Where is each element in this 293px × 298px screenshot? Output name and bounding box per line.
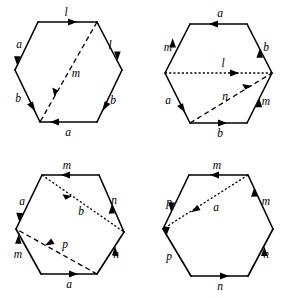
- edge-label-top-br: m: [213, 159, 221, 171]
- edge-lower-right-bl: [97, 232, 124, 274]
- edge-label-lower-right-bl: n: [113, 248, 119, 260]
- edge-label-upper-left-bl: a: [19, 195, 25, 207]
- arrow-lower-left-tr: [177, 103, 185, 113]
- diagonal-label-n-tr: n: [222, 90, 228, 102]
- arrow-bottom-br: [220, 272, 229, 279]
- hexagon-outline-br: [163, 175, 273, 276]
- diagonal-label-l-tr: l: [221, 57, 224, 69]
- diagonal-label-b-bl: b: [78, 205, 84, 217]
- hexagon-panel-bottom-left: m a m a n n b p: [0, 149, 146, 298]
- edge-label-lower-right-tr: m: [262, 95, 270, 107]
- edge-label-upper-right-bl: n: [111, 194, 117, 206]
- hexagon-panel-bottom-right: m p p n n m a: [147, 149, 293, 298]
- edge-label-upper-left-br: p: [165, 196, 172, 209]
- edge-label-lower-left-tl: b: [15, 92, 21, 104]
- edge-label-lower-left-bl: m: [14, 248, 22, 260]
- diagonal-label-m-tl: m: [72, 67, 80, 79]
- arrow-top-br: [210, 171, 219, 178]
- diagonal-label-p-bl: p: [61, 238, 68, 251]
- edge-label-bottom-tl: a: [65, 126, 71, 138]
- arrow-bottom-tl: [50, 118, 59, 125]
- edge-label-top-tr: a: [217, 7, 223, 19]
- arrow-top-tl: [68, 18, 77, 25]
- edge-label-bottom-br: n: [217, 280, 223, 292]
- arrow-top-bl: [61, 171, 70, 178]
- edge-label-lower-left-br: p: [165, 250, 172, 263]
- arrow-diag-m-tl: [52, 87, 58, 97]
- hexagon-outline-bl: [16, 175, 124, 274]
- diagonal-m-tl: [40, 22, 97, 122]
- edge-label-upper-right-tr: b: [263, 41, 269, 53]
- edge-label-lower-right-tl: b: [110, 94, 116, 106]
- edge-label-lower-right-br: n: [263, 248, 269, 260]
- arrow-diag-a-br: [191, 205, 201, 212]
- edge-label-bottom-tr: b: [217, 127, 223, 139]
- arrow-lower-left-tl: [27, 102, 35, 112]
- edge-label-upper-left-tr: m: [164, 41, 172, 53]
- arrow-bottom-bl: [69, 270, 78, 277]
- edge-label-lower-left-tr: a: [165, 94, 171, 106]
- hexagon-panel-top-left: l a b a b l m: [0, 0, 146, 149]
- edge-lower-right-br: [248, 229, 273, 276]
- arrow-diag-l-tr: [230, 69, 239, 76]
- edge-label-upper-right-tl: l: [108, 39, 111, 51]
- hexagon-figure: l a b a b l m: [0, 0, 293, 298]
- edge-label-bottom-bl: a: [66, 278, 72, 290]
- edge-label-upper-right-br: m: [262, 195, 270, 207]
- diagonal-label-a-br: a: [213, 201, 219, 213]
- edge-label-top-tl: l: [64, 6, 67, 18]
- arrow-diag-p-bl: [45, 239, 55, 246]
- hexagon-panel-top-right: a m a b m b l n: [147, 0, 293, 149]
- edge-label-top-bl: m: [63, 159, 71, 171]
- arrow-bottom-tr: [218, 119, 227, 126]
- edge-label-upper-left-tl: a: [16, 38, 22, 50]
- arrow-top-tr: [209, 20, 218, 27]
